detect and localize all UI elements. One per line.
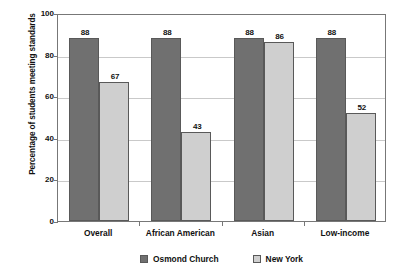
bar[interactable]: 43 (181, 132, 211, 221)
bar-group: 8886 (234, 15, 294, 221)
bar[interactable]: 67 (99, 82, 129, 221)
x-tick-label: Overall (57, 228, 139, 238)
x-axis-labels: OverallAfrican AmericanAsianLow-income (57, 228, 386, 242)
y-tick-label: 40 (32, 135, 54, 143)
bar[interactable]: 88 (234, 38, 264, 221)
x-tick-mark (139, 222, 140, 226)
legend-label: Osmond Church (153, 254, 219, 264)
bar[interactable]: 88 (316, 38, 346, 221)
bar-value-label: 88 (235, 29, 265, 37)
bar[interactable]: 88 (69, 38, 99, 221)
bar[interactable]: 52 (346, 113, 376, 221)
x-tick-label: Asian (222, 228, 304, 238)
bar-value-label: 52 (347, 104, 377, 112)
bar-value-label: 88 (152, 29, 182, 37)
legend-label: New York (266, 254, 303, 264)
y-tick-label: 20 (32, 176, 54, 184)
bar-group: 8843 (151, 15, 211, 221)
bar[interactable]: 86 (264, 42, 294, 221)
y-tick-label: 100 (32, 10, 54, 18)
legend-swatch-icon (140, 255, 148, 263)
bars-layer: 8867884388868852 (58, 15, 385, 221)
plot-area: 8867884388868852 (57, 14, 386, 222)
bar-value-label: 86 (265, 33, 295, 41)
legend-item[interactable]: Osmond Church (140, 254, 219, 264)
x-tick-label: African American (139, 228, 221, 238)
bar-chart: Percentage of students meeting standards… (0, 0, 403, 278)
x-axis-ticks (57, 222, 386, 226)
bar-value-label: 43 (182, 123, 212, 131)
bar-group: 8852 (316, 15, 376, 221)
x-tick-label: Low-income (304, 228, 386, 238)
bar-value-label: 88 (317, 29, 347, 37)
bar-group: 8867 (69, 15, 129, 221)
y-tick-label: 0 (32, 218, 54, 226)
y-tick-label: 80 (32, 52, 54, 60)
bar-value-label: 67 (100, 73, 130, 81)
bar-value-label: 88 (70, 29, 100, 37)
legend-item[interactable]: New York (253, 254, 303, 264)
legend-swatch-icon (253, 255, 261, 263)
x-tick-mark (222, 222, 223, 226)
chart-legend: Osmond ChurchNew York (57, 252, 386, 266)
bar[interactable]: 88 (151, 38, 181, 221)
x-tick-mark (304, 222, 305, 226)
y-axis-ticks: 020406080100 (28, 14, 54, 222)
y-tick-label: 60 (32, 93, 54, 101)
